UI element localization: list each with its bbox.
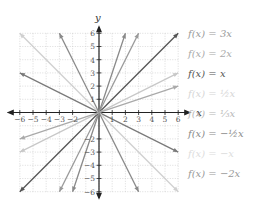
y-tick-label: 2 bbox=[90, 82, 95, 91]
y-tick-label: 1 bbox=[90, 95, 95, 104]
y-tick-label: −5 bbox=[84, 174, 95, 183]
y-tick-label: −3 bbox=[84, 148, 95, 157]
x-tick-label: 2 bbox=[123, 115, 128, 124]
y-tick-label: −4 bbox=[84, 161, 95, 170]
arrowhead-icon bbox=[20, 135, 25, 139]
x-tick-label: −2 bbox=[67, 115, 78, 124]
x-tick-label: −5 bbox=[27, 115, 38, 124]
legend-item-neg-x: f(x) = −x bbox=[188, 148, 234, 160]
x-tick-label: −4 bbox=[41, 115, 52, 124]
arrowhead-icon bbox=[122, 33, 126, 38]
y-axis-arrow-down-icon bbox=[96, 193, 102, 200]
arrowhead-icon bbox=[72, 186, 76, 191]
legend-item-2x: f(x) = 2x bbox=[188, 48, 232, 60]
x-tick-label: 4 bbox=[149, 115, 154, 124]
legend-item-neg-half-x: f(x) = −½x bbox=[188, 128, 244, 140]
y-axis-label: y bbox=[94, 12, 101, 23]
legend-item-half-x: f(x) = ½x bbox=[188, 88, 235, 100]
y-tick-label: −6 bbox=[84, 188, 95, 197]
y-axis-arrow-up-icon bbox=[96, 25, 102, 32]
y-tick-label: 3 bbox=[90, 69, 95, 78]
x-tick-label: 6 bbox=[176, 115, 181, 124]
x-axis-arrow-left-icon bbox=[7, 110, 14, 116]
legend-item-neg-2x: f(x) = −2x bbox=[188, 168, 240, 180]
x-tick-label: −6 bbox=[14, 115, 25, 124]
y-tick-label: 5 bbox=[90, 42, 95, 51]
arrowhead-icon bbox=[173, 86, 178, 90]
y-tick-label: 6 bbox=[90, 29, 95, 38]
legend-item-third-x: f(x) = ⅓x bbox=[188, 108, 235, 120]
x-tick-label: 5 bbox=[163, 115, 168, 124]
y-tick-label: 4 bbox=[90, 56, 95, 65]
legend-item-3x: f(x) = 3x bbox=[188, 28, 232, 40]
x-tick-label: −3 bbox=[54, 115, 65, 124]
y-tick-label: −2 bbox=[84, 135, 95, 144]
x-tick-label: 1 bbox=[110, 115, 115, 124]
legend-item-x: f(x) = x bbox=[188, 68, 226, 80]
x-tick-label: 3 bbox=[136, 115, 141, 124]
